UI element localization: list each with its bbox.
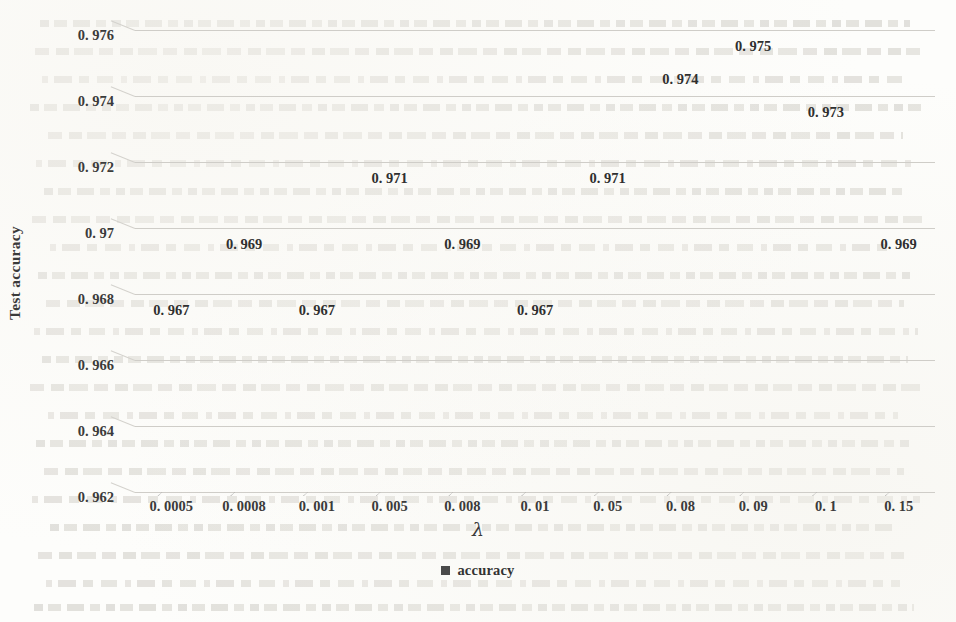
bar[interactable] [157,327,185,492]
bar[interactable] [885,261,913,492]
x-axis-tick-label: 0. 05 [593,498,622,515]
y-axis-tick-label: 0. 964 [28,423,114,440]
x-axis-tick-label: 0. 0005 [150,498,194,515]
bar[interactable] [448,261,476,492]
x-axis-tick-label: 0. 008 [444,498,480,515]
legend-label-accuracy: accuracy [457,562,514,579]
bar-value-label: 0. 974 [662,71,698,88]
plot-area: 0. 9670. 9690. 9670. 9710. 9690. 9670. 9… [135,30,935,492]
gridline-depth-lead [111,86,135,97]
x-axis-tick-label: 0. 08 [666,498,695,515]
bar[interactable] [521,327,549,492]
y-axis-tick-label: 0. 962 [28,489,114,506]
bar[interactable] [230,261,258,492]
gridline-depth-lead [111,284,135,295]
chart-legend: accuracy [0,562,956,579]
bar[interactable] [812,129,840,492]
bar-value-label: 0. 971 [371,170,407,187]
bar-value-label: 0. 973 [808,104,844,121]
bar-value-label: 0. 967 [299,302,335,319]
bar[interactable] [739,63,767,492]
y-axis-tick-label: 0. 966 [28,357,114,374]
gridline-depth-lead [111,20,135,31]
y-axis-tick-label: 0. 97 [28,225,114,242]
gridline [135,492,935,493]
gridline-depth-lead [111,416,135,427]
x-axis-tick-label: 0. 09 [739,498,768,515]
y-axis-tick-label: 0. 974 [28,93,114,110]
y-axis-tick-label: 0. 968 [28,291,114,308]
y-axis-title: Test accuracy [6,188,24,358]
x-axis-tick-label: 0. 001 [299,498,335,515]
bar-value-label: 0. 969 [444,236,480,253]
bar-value-label: 0. 967 [517,302,553,319]
x-axis-tick-label: 0. 005 [371,498,407,515]
x-axis-tick-label: 0. 15 [884,498,913,515]
bar[interactable] [666,96,694,492]
bar-value-label: 0. 975 [735,38,771,55]
y-axis-tick-label: 0. 976 [28,27,114,44]
bar-value-label: 0. 969 [881,236,917,253]
bar-value-label: 0. 967 [153,302,189,319]
bar-chart: Test accuracy 0. 9620. 9640. 9660. 9680.… [0,0,956,622]
x-axis-title: λ [0,518,956,540]
y-axis-tick-label: 0. 972 [28,159,114,176]
bar-value-label: 0. 971 [590,170,626,187]
bar[interactable] [594,195,622,492]
gridline-depth-lead [111,218,135,229]
legend-swatch-accuracy [441,566,450,575]
bar-value-label: 0. 969 [226,236,262,253]
x-axis-tick-label: 0. 01 [521,498,550,515]
bar-series-accuracy: 0. 9670. 9690. 9670. 9710. 9690. 9670. 9… [135,30,935,492]
gridline-depth-lead [111,152,135,163]
x-axis-tick-label: 0. 1 [815,498,837,515]
bar[interactable] [303,327,331,492]
x-axis-tick-label: 0. 0008 [222,498,266,515]
gridline-depth-lead [111,350,135,361]
gridline-depth-lead [111,482,135,493]
bar[interactable] [376,195,404,492]
